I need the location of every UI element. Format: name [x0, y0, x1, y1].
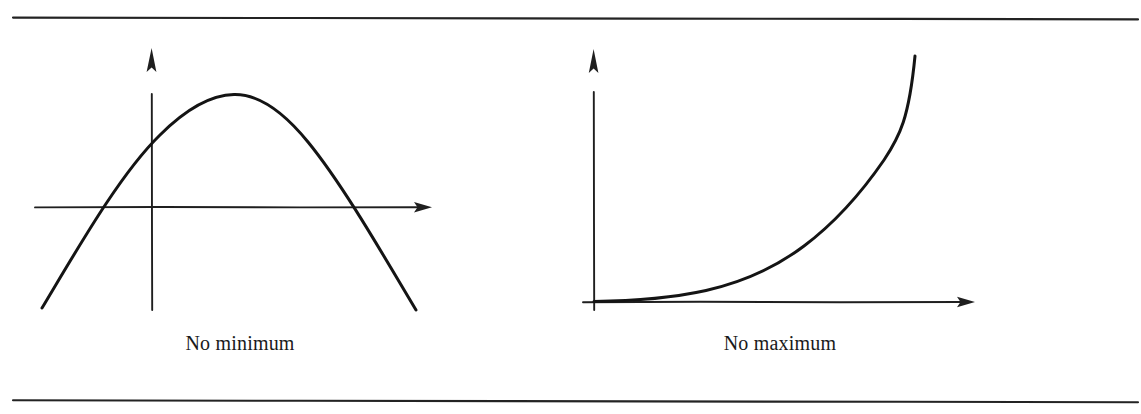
y-axis-right — [589, 49, 599, 310]
top-rule-svg — [0, 12, 1141, 24]
figure-page: No minimum No maximum — [0, 0, 1141, 414]
y-axis-left — [147, 48, 157, 310]
figure-panel-no-maximum — [540, 34, 1000, 324]
caption-no-minimum: No minimum — [100, 330, 380, 356]
plot-no-minimum — [0, 34, 470, 324]
figure-panel-no-minimum — [0, 34, 470, 324]
caption-no-maximum: No maximum — [640, 330, 920, 356]
bottom-rule-svg — [0, 395, 1141, 407]
curve-exponential-increasing — [594, 56, 915, 302]
curve-parabola-downward — [42, 94, 416, 310]
x-axis-left — [35, 202, 432, 212]
plot-no-maximum — [540, 34, 1000, 324]
bottom-horizontal-rule — [0, 393, 1141, 405]
top-horizontal-rule — [0, 10, 1141, 22]
